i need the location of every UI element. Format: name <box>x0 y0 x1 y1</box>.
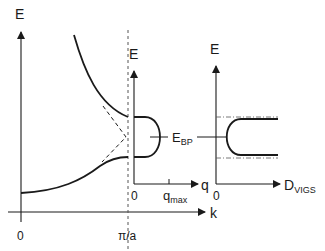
tick-zero: 0 <box>17 229 24 243</box>
qmax-label: qmax <box>163 188 188 205</box>
middle-origin-label: 0 <box>131 189 138 203</box>
dvigs-label: DVIGS <box>284 177 316 195</box>
left-panel: E k 0 π/a <box>8 6 218 251</box>
k-label: k <box>210 205 218 221</box>
right-origin-label: 0 <box>213 189 220 203</box>
right-panel: E 0 DVIGS <box>210 41 316 203</box>
vigs-density-curve <box>227 119 278 155</box>
band-structure-diagram: E k 0 π/a E q 0 qmax EBP E 0 DVIGS <box>0 0 325 251</box>
left-e-label: E <box>15 6 24 22</box>
ebp-label: EBP <box>172 130 193 147</box>
tick-pi-over-a: π/a <box>118 229 137 243</box>
upper-band-curve <box>74 35 128 117</box>
middle-panel: E q 0 qmax EBP <box>129 46 227 205</box>
right-e-label: E <box>210 41 219 57</box>
lower-band-curve <box>21 157 128 193</box>
q-label: q <box>201 177 209 193</box>
middle-e-label: E <box>129 46 138 62</box>
